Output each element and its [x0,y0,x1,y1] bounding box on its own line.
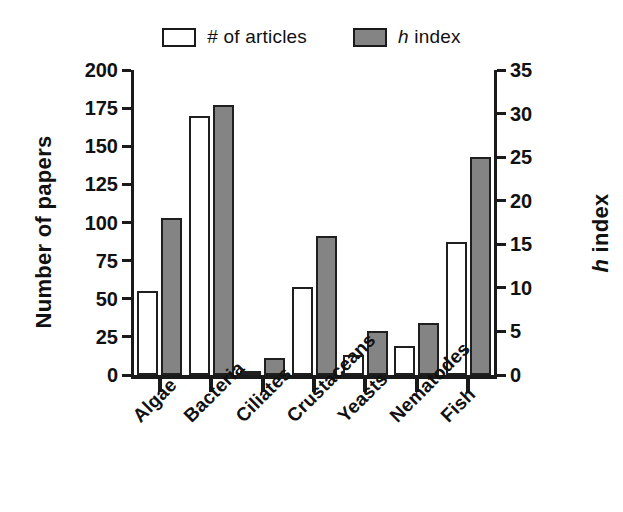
y-axis-left-ticklabel: 100 [85,213,118,233]
y-axis-left-ticklabel: 25 [96,327,118,347]
y-axis-right-ticklabel: 15 [510,234,532,254]
legend-label-h-rest: index [409,26,461,47]
y-axis-right-tick [497,69,506,72]
legend-item-h-index: h index [353,26,461,48]
y-axis-right-ticklabel: 30 [510,104,532,124]
y-axis-right-ticklabel: 35 [510,60,532,80]
bar-articles [394,346,415,375]
y-axis-left-tick [122,145,131,148]
legend-label-articles: # of articles [207,26,307,48]
y-axis-left-title: Number of papers [31,102,57,362]
bar-articles [137,291,158,375]
chart-legend: # of articles h index [0,26,623,48]
y-axis-right-tick [497,286,506,289]
x-axis-label-algae: Algae [128,374,181,427]
y-axis-right-ticklabel: 25 [510,147,532,167]
y-axis-right-ticklabel: 5 [510,321,521,341]
bar-h-index [161,218,182,375]
y-axis-left-tick [122,374,131,377]
y-axis-left-ticklabel: 125 [85,174,118,194]
y-axis-right-tick [497,243,506,246]
y-axis-left-ticklabel: 0 [107,365,118,385]
y-axis-right-tick [497,374,506,377]
x-axis-label-fish: Fish [437,383,481,427]
y-axis-right-tick [497,156,506,159]
y-axis-left-ticklabel: 175 [85,98,118,118]
y-axis-right-ticklabel: 10 [510,278,532,298]
bar-articles [292,287,313,375]
y-axis-left-ticklabel: 200 [85,60,118,80]
y-axis-right-title-italic: h [588,259,613,273]
legend-label-h-index: h index [398,26,461,48]
bar-h-index [316,236,337,375]
legend-item-articles: # of articles [162,26,307,48]
y-axis-right-ticklabel: 0 [510,365,521,385]
white-square-icon [162,28,196,47]
y-axis-right-tick [497,330,506,333]
y-axis-right-title: h index [588,133,614,333]
y-axis-right-tick [497,112,506,115]
bar-h-index [213,105,234,375]
y-axis-left-tick [122,297,131,300]
y-axis-left-ticklabel: 50 [96,289,118,309]
y-axis-left-tick [122,335,131,338]
gray-square-icon [353,28,387,47]
y-axis-left-tick [122,69,131,72]
y-axis-right-ticklabel: 20 [510,191,532,211]
y-axis-right-tick [497,199,506,202]
bar-h-index [470,157,491,375]
y-axis-left-ticklabel: 150 [85,136,118,156]
y-axis-left-tick [122,259,131,262]
y-axis-left-tick [122,183,131,186]
bar-articles [189,116,210,375]
y-axis-left-spine [131,70,134,375]
legend-label-h-italic: h [398,26,409,47]
chart-figure: # of articles h index Number of papers h… [0,0,623,512]
plot-area: 0255075100125150175200 05101520253035 Al… [134,70,494,375]
y-axis-left-tick [122,107,131,110]
y-axis-right-title-rest: index [588,193,613,258]
y-axis-left-tick [122,221,131,224]
y-axis-left-ticklabel: 75 [96,251,118,271]
